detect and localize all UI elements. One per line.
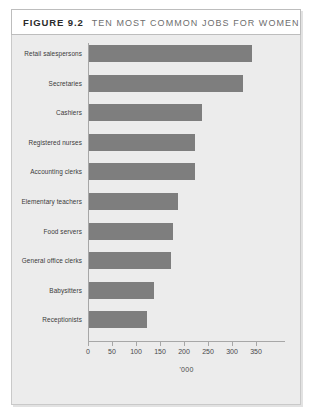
x-axis-title: '000 bbox=[88, 366, 285, 373]
x-axis-tick-label: 200 bbox=[171, 348, 197, 355]
bar-row: Retail salespersons bbox=[12, 45, 300, 62]
bar-row: General office clerks bbox=[12, 252, 300, 269]
bar-category-label: Registered nurses bbox=[12, 134, 82, 151]
bar bbox=[89, 311, 147, 328]
figure-root: FIGURE 9.2 TEN MOST COMMON JOBS FOR WOME… bbox=[0, 0, 312, 419]
x-axis-tick bbox=[112, 342, 113, 346]
bar-category-label: Secretaries bbox=[12, 75, 82, 92]
y-axis-line bbox=[88, 43, 89, 341]
bar-category-label: General office clerks bbox=[12, 252, 82, 269]
bar-row: Receptionists bbox=[12, 311, 300, 328]
bar bbox=[89, 282, 154, 299]
figure-title-inner: FIGURE 9.2 TEN MOST COMMON JOBS FOR WOME… bbox=[12, 17, 300, 28]
bar-category-label: Receptionists bbox=[12, 311, 82, 328]
x-axis-tick-label: 0 bbox=[75, 348, 101, 355]
figure-title-bar: FIGURE 9.2 TEN MOST COMMON JOBS FOR WOME… bbox=[11, 9, 301, 35]
x-axis-tick-label: 50 bbox=[99, 348, 125, 355]
x-axis-tick bbox=[136, 342, 137, 346]
bar bbox=[89, 252, 171, 269]
x-axis-tick bbox=[208, 342, 209, 346]
x-axis-tick-label: 350 bbox=[243, 348, 269, 355]
x-axis-tick bbox=[88, 342, 89, 346]
x-axis-tick bbox=[184, 342, 185, 346]
bar-row: Accounting clerks bbox=[12, 163, 300, 180]
figure-number-label: FIGURE 9.2 bbox=[23, 17, 84, 28]
bar-category-label: Babysitters bbox=[12, 282, 82, 299]
x-axis-tick bbox=[256, 342, 257, 346]
chart-plot-panel: Retail salespersonsSecretariesCashiersRe… bbox=[11, 36, 301, 405]
bar-category-label: Retail salespersons bbox=[12, 45, 82, 62]
figure-title-text: TEN MOST COMMON JOBS FOR WOMEN bbox=[92, 18, 300, 28]
bar-category-label: Cashiers bbox=[12, 104, 82, 121]
bar-row: Food servers bbox=[12, 223, 300, 240]
x-axis-tick-label: 150 bbox=[147, 348, 173, 355]
bar bbox=[89, 163, 195, 180]
bar-row: Registered nurses bbox=[12, 134, 300, 151]
x-axis-tick bbox=[232, 342, 233, 346]
bar-row: Cashiers bbox=[12, 104, 300, 121]
x-axis-tick bbox=[160, 342, 161, 346]
x-axis-tick-label: 300 bbox=[219, 348, 245, 355]
bar bbox=[89, 134, 195, 151]
bar bbox=[89, 45, 252, 62]
bar-category-label: Food servers bbox=[12, 223, 82, 240]
bar bbox=[89, 104, 202, 121]
bar-row: Elementary teachers bbox=[12, 193, 300, 210]
x-axis-tick-label: 250 bbox=[195, 348, 221, 355]
bar bbox=[89, 193, 178, 210]
bar bbox=[89, 223, 173, 240]
bar-category-label: Accounting clerks bbox=[12, 163, 82, 180]
bar-category-label: Elementary teachers bbox=[12, 193, 82, 210]
bar-row: Secretaries bbox=[12, 75, 300, 92]
bar-row: Babysitters bbox=[12, 282, 300, 299]
x-axis-tick-label: 100 bbox=[123, 348, 149, 355]
bar bbox=[89, 75, 243, 92]
